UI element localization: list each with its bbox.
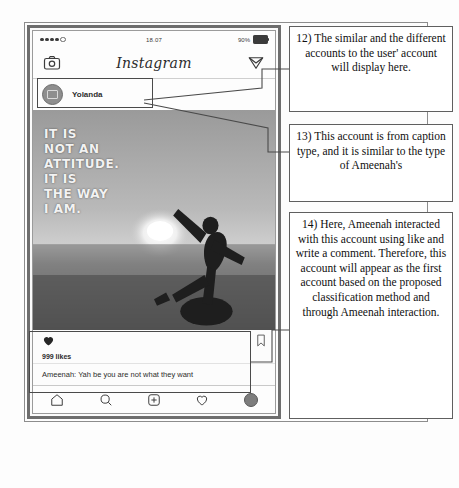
home-icon[interactable] bbox=[50, 393, 64, 407]
likes-count: 999 likes bbox=[33, 350, 275, 363]
signal-dot bbox=[40, 38, 44, 42]
instagram-wordmark: Instagram bbox=[33, 55, 275, 71]
figure-root: 18.07 90% Instagram bbox=[0, 0, 459, 488]
annotation-note-13: 13) This account is from caption type, a… bbox=[289, 124, 453, 202]
paper-plane-icon[interactable] bbox=[247, 54, 265, 72]
signal-strength-dots bbox=[40, 37, 66, 43]
post-photo[interactable]: IT IS NOT AN ATTITUDE. IT IS THE WAY I A… bbox=[33, 110, 275, 330]
annotation-note-12: 12) The similar and the different accoun… bbox=[289, 26, 453, 112]
annotation-note-14: 14) Here, Ameenah interacted with this a… bbox=[289, 212, 453, 419]
plus-circle-icon[interactable] bbox=[147, 393, 161, 407]
signal-dot bbox=[55, 38, 59, 42]
photo-overlay-text: IT IS NOT AN ATTITUDE. IT IS THE WAY I A… bbox=[44, 127, 120, 217]
post-action-bar bbox=[33, 330, 275, 350]
status-bar-right: 90% bbox=[238, 35, 268, 44]
battery-icon bbox=[253, 35, 268, 44]
highlight-box-suggested-account bbox=[37, 78, 153, 108]
signal-dot bbox=[50, 38, 54, 42]
phone-mockup: 18.07 90% Instagram bbox=[27, 25, 281, 419]
bookmark-icon[interactable] bbox=[256, 334, 266, 347]
post-comment[interactable]: Ameenah: Yah be you are not what they wa… bbox=[33, 363, 275, 385]
search-icon[interactable] bbox=[99, 393, 113, 407]
heart-filled-icon[interactable] bbox=[42, 334, 55, 347]
signal-dot-empty bbox=[60, 37, 66, 43]
battery-percent-label: 90% bbox=[238, 37, 250, 43]
bottom-tab-bar bbox=[33, 385, 275, 413]
camera-icon[interactable] bbox=[43, 54, 61, 72]
suggested-account-row[interactable]: Yolanda bbox=[33, 79, 275, 110]
phone-screen: 18.07 90% Instagram bbox=[32, 30, 276, 414]
signal-dot bbox=[45, 38, 49, 42]
status-bar: 18.07 90% bbox=[33, 31, 275, 48]
app-header: Instagram bbox=[33, 48, 275, 79]
profile-avatar-icon[interactable] bbox=[244, 393, 258, 407]
heart-outline-icon[interactable] bbox=[195, 393, 209, 407]
